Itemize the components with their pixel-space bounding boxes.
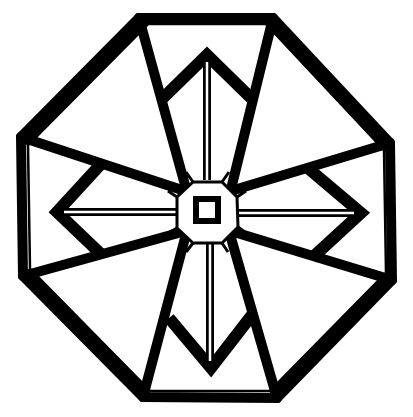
diagram-svg [0, 0, 413, 417]
octagonal-cross-diagram [0, 0, 413, 417]
center-square [196, 199, 218, 221]
